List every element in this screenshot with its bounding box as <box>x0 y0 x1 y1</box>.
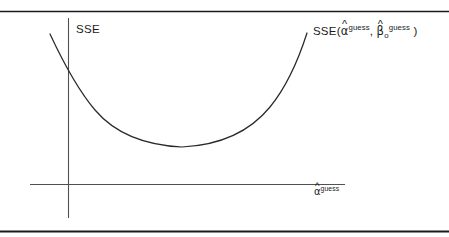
sse-curve <box>50 33 307 147</box>
figure-container: SSE SSE(α^guess, β^oguess ) α^guess <box>0 0 449 237</box>
plot-canvas <box>0 0 449 237</box>
